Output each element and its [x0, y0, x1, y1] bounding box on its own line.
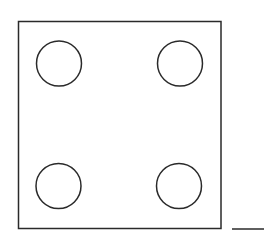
circle-top-left [37, 41, 82, 86]
circle-top-right [158, 41, 203, 86]
circle-bottom-left [36, 164, 81, 209]
square-outline [19, 22, 222, 229]
circle-bottom-right [157, 164, 202, 209]
diagram-canvas [0, 0, 264, 231]
